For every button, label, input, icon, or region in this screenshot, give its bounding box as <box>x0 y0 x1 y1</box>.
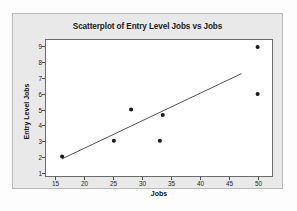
x-tick-label: 35 <box>168 180 175 187</box>
regression-line-segment <box>62 74 241 159</box>
y-tick-label: 5 <box>33 106 42 113</box>
plot-area <box>45 39 273 177</box>
chart-panel: Scatterplot of Entry Level Jobs vs Jobs … <box>12 13 283 189</box>
y-tick-mark <box>42 62 45 63</box>
y-tick-mark <box>42 157 45 158</box>
y-axis-label: Entry Level Jobs <box>23 72 30 152</box>
x-tick-label: 25 <box>110 180 117 187</box>
y-tick-mark <box>42 125 45 126</box>
x-tick-label: 30 <box>139 180 146 187</box>
y-tick-mark <box>42 141 45 142</box>
y-tick-label: 3 <box>33 138 42 145</box>
x-tick-label: 15 <box>52 180 59 187</box>
chart-title: Scatterplot of Entry Level Jobs vs Jobs <box>13 22 282 31</box>
data-point <box>161 113 165 117</box>
data-point <box>158 139 162 143</box>
regression-line <box>62 74 241 159</box>
y-tick-label: 8 <box>33 59 42 66</box>
data-point <box>112 139 116 143</box>
data-point <box>256 92 260 96</box>
y-tick-mark <box>42 110 45 111</box>
y-tick-label: 9 <box>33 43 42 50</box>
y-tick-label: 6 <box>33 90 42 97</box>
y-tick-label: 7 <box>33 74 42 81</box>
scatter-plot-svg <box>46 40 272 176</box>
data-point <box>60 154 64 158</box>
data-point <box>129 108 133 112</box>
y-tick-mark <box>42 78 45 79</box>
x-axis-label: Jobs <box>45 190 273 197</box>
data-points-group <box>60 45 260 158</box>
y-tick-label: 2 <box>33 154 42 161</box>
x-tick-label: 45 <box>226 180 233 187</box>
y-tick-mark <box>42 94 45 95</box>
x-tick-label: 50 <box>255 180 262 187</box>
x-tick-label: 40 <box>197 180 204 187</box>
data-point <box>256 45 260 49</box>
x-tick-label: 20 <box>81 180 88 187</box>
figure-root: Scatterplot of Entry Level Jobs vs Jobs … <box>0 0 297 211</box>
y-tick-label: 1 <box>33 170 42 177</box>
y-tick-label: 4 <box>33 122 42 129</box>
y-tick-mark <box>42 46 45 47</box>
y-tick-mark <box>42 173 45 174</box>
